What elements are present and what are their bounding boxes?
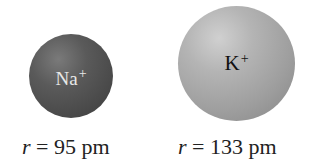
potassium-radius-label: r = 133 pm — [178, 134, 277, 160]
potassium-ion-label: K+ — [178, 51, 295, 76]
sodium-ion-sphere: Na+ — [29, 34, 113, 118]
potassium-ion-sphere: K+ — [178, 6, 295, 121]
sodium-ion-label: Na+ — [29, 66, 113, 90]
sodium-radius-label: r = 95 pm — [22, 134, 110, 160]
